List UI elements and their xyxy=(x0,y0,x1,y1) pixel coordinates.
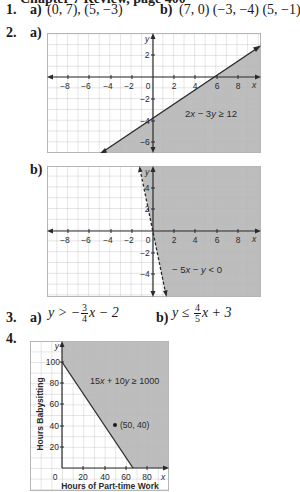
svg-text:−2: −2 xyxy=(140,94,150,104)
q1a-answer: (0, 7), (5, −3) xyxy=(47,2,123,18)
q2b-label: b) xyxy=(30,162,42,178)
inequality-label: 2x − 3y ≥ 12 xyxy=(185,108,237,119)
q3b-rhs: x + 3 xyxy=(202,305,232,320)
svg-text:0: 0 xyxy=(146,81,151,91)
svg-text:x: x xyxy=(251,234,257,244)
svg-text:2: 2 xyxy=(145,204,150,214)
svg-text:4: 4 xyxy=(193,81,198,91)
svg-text:2: 2 xyxy=(145,50,150,60)
svg-text:−4: −4 xyxy=(103,235,113,245)
svg-text:0: 0 xyxy=(53,472,58,482)
q1b-label: b) xyxy=(160,2,172,18)
svg-text:y: y xyxy=(144,167,150,177)
q3a-lhs: y > − xyxy=(48,305,80,320)
svg-text:x: x xyxy=(160,472,166,482)
q3b-lhs: y ≤ xyxy=(172,305,193,320)
svg-text:−2: −2 xyxy=(140,248,150,258)
svg-text:20: 20 xyxy=(50,442,60,452)
q1a-label: a) xyxy=(30,2,42,18)
svg-text:80: 80 xyxy=(50,378,60,388)
svg-text:−4: −4 xyxy=(140,269,150,279)
q1-number: 1. xyxy=(6,2,17,18)
svg-text:−2: −2 xyxy=(124,81,134,91)
x-axis-title: Hours of Part-time Work xyxy=(61,481,159,491)
svg-text:y: y xyxy=(54,341,60,351)
q1b-answer: (7, 0) (−3, −4) (5, −1) xyxy=(179,2,300,18)
svg-text:−8: −8 xyxy=(60,235,70,245)
svg-text:2: 2 xyxy=(172,81,177,91)
svg-text:−6: −6 xyxy=(81,81,91,91)
svg-text:4: 4 xyxy=(193,235,198,245)
test-point xyxy=(113,423,117,427)
svg-text:40: 40 xyxy=(50,421,60,431)
svg-text:y: y xyxy=(144,34,150,44)
svg-text:6: 6 xyxy=(215,81,220,91)
svg-text:−8: −8 xyxy=(60,81,70,91)
q4-number: 4. xyxy=(6,331,17,347)
svg-text:4: 4 xyxy=(145,183,150,193)
q3a-label: a) xyxy=(30,310,42,326)
svg-text:8: 8 xyxy=(236,235,241,245)
svg-text:8: 8 xyxy=(236,81,241,91)
svg-text:−6: −6 xyxy=(81,235,91,245)
svg-text:0: 0 xyxy=(146,235,151,245)
svg-text:60: 60 xyxy=(50,399,60,409)
svg-text:6: 6 xyxy=(215,235,220,245)
q2a-label: a) xyxy=(30,25,42,41)
test-point-label: (50, 40) xyxy=(120,420,149,430)
q3a-rhs: x − 2 xyxy=(89,305,119,320)
q3a-fraction: 34 xyxy=(81,303,88,324)
y-axis-title: Hours Babysitting xyxy=(35,377,45,450)
svg-text:x: x xyxy=(251,80,257,90)
q2-number: 2. xyxy=(6,25,17,41)
graph-2b: −8−6−4−2 02468 x 42−2−4 y − 5x − y < 0 xyxy=(47,166,261,297)
svg-text:2: 2 xyxy=(172,235,177,245)
svg-text:−6: −6 xyxy=(140,137,150,147)
svg-text:−2: −2 xyxy=(124,235,134,245)
q3b-label: b) xyxy=(156,310,168,326)
q3a-answer: y > −34x − 2 xyxy=(48,303,119,324)
svg-text:−4: −4 xyxy=(140,116,150,126)
q3b-answer: y ≤ 45x + 3 xyxy=(172,303,232,324)
q3-number: 3. xyxy=(6,310,17,326)
inequality-label: 15x + 10y ≥ 1000 xyxy=(90,376,159,386)
inequality-label: − 5x − y < 0 xyxy=(172,264,222,275)
q3b-fraction: 45 xyxy=(194,303,201,324)
svg-text:−4: −4 xyxy=(103,81,113,91)
graph-4: 02040 6080 x 204060 80100 y Hours Babysi… xyxy=(30,341,169,491)
svg-text:100: 100 xyxy=(46,357,60,367)
graph-2a: −8−6−4−2 02468 x 2−2−4−6 y 2x − 3y ≥ 12 xyxy=(47,33,261,153)
